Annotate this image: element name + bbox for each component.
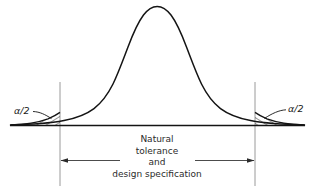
- caption-line-4: design specification: [112, 169, 201, 179]
- dimension-arrowhead-right: [247, 158, 255, 162]
- figure-container: α/2 α/2 Natural tolerance and design spe…: [0, 0, 313, 193]
- caption-line-3: and: [149, 157, 166, 167]
- alpha-right-annotation: α/2: [265, 103, 304, 118]
- alpha-left-label: α/2: [14, 105, 30, 116]
- normal-distribution-curve: [11, 6, 305, 125]
- dimension-arrowhead-left: [61, 158, 69, 162]
- caption-block: Natural tolerance and design specificati…: [112, 134, 201, 179]
- tail-shaded-regions: [8, 105, 307, 127]
- caption-line-1: Natural: [140, 134, 173, 144]
- alpha-left-annotation: α/2: [14, 105, 52, 119]
- alpha-right-leader-line: [265, 110, 287, 119]
- distribution-diagram: α/2 α/2 Natural tolerance and design spe…: [0, 0, 313, 193]
- alpha-left-leader-line: [33, 112, 52, 119]
- alpha-right-label: α/2: [288, 103, 304, 114]
- caption-line-2: tolerance: [136, 146, 179, 156]
